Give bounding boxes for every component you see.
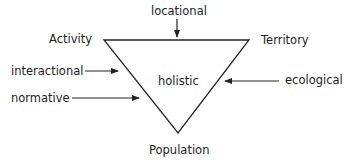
- vertex-label-population: Population: [149, 143, 209, 157]
- center-label-holistic: holistic: [158, 74, 199, 88]
- vertex-label-activity: Activity: [49, 32, 92, 46]
- vertex-label-territory: Territory: [261, 33, 309, 47]
- triangle-diagram: Activity Territory Population holistic l…: [0, 0, 353, 165]
- arrow-label-interactional: interactional: [11, 64, 83, 78]
- arrow-label-locational: locational: [151, 4, 207, 18]
- arrow-label-normative: normative: [11, 91, 70, 105]
- arrow-label-ecological: ecological: [285, 73, 343, 87]
